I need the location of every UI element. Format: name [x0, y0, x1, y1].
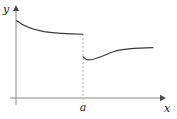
- x-axis: [10, 95, 166, 101]
- x-axis-arrowhead: [160, 95, 166, 101]
- x-tick-label-a: a: [80, 101, 87, 114]
- plot-canvas: y x a: [0, 0, 177, 119]
- curve-branch-left: [17, 21, 84, 35]
- x-axis-label: x: [164, 102, 171, 115]
- y-axis-label: y: [2, 3, 10, 16]
- y-axis-arrowhead: [13, 5, 19, 11]
- y-axis: [13, 5, 19, 105]
- curve-branch-right: [83, 48, 153, 60]
- math-graph-figure: y x a: [0, 0, 177, 119]
